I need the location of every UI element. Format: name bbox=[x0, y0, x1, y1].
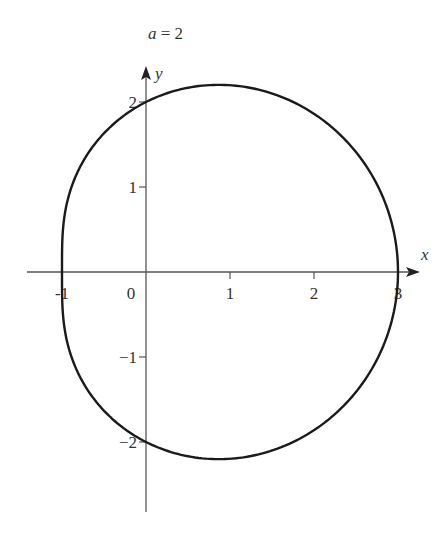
y-axis-label: y bbox=[153, 64, 163, 83]
y-tick-label: −1 bbox=[119, 348, 137, 367]
x-tick-label: 1 bbox=[226, 284, 235, 303]
plot-title: a = 2 bbox=[148, 24, 183, 43]
plot-canvas: a = 2 -1012321−1−2 x y bbox=[0, 0, 448, 542]
y-tick-label: 1 bbox=[129, 178, 138, 197]
x-axis-label: x bbox=[420, 245, 429, 264]
x-tick-label: 2 bbox=[310, 284, 319, 303]
x-tick-label: 0 bbox=[127, 284, 136, 303]
axes bbox=[27, 66, 420, 512]
